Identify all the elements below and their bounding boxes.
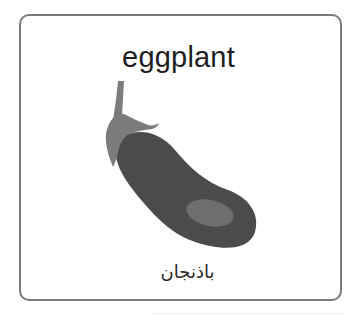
eggplant-body — [116, 132, 256, 248]
divider — [150, 313, 345, 314]
card-subtitle-arabic: باذنجان — [0, 259, 357, 285]
